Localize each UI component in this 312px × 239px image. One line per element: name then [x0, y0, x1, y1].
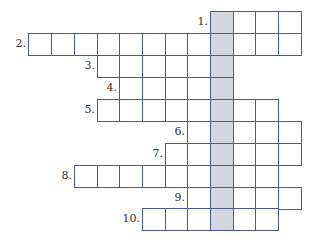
key-column-cell[interactable]	[210, 121, 234, 144]
letter-cell[interactable]	[51, 33, 75, 56]
clue-number: 1.	[178, 11, 208, 33]
letter-cell[interactable]	[187, 33, 211, 56]
letter-cell[interactable]	[233, 208, 257, 231]
letter-cell[interactable]	[119, 165, 143, 188]
letter-cell[interactable]	[142, 55, 166, 78]
clue-number: 10.	[110, 208, 140, 230]
key-column-cell[interactable]	[210, 33, 234, 56]
letter-cell[interactable]	[165, 165, 189, 188]
letter-cell[interactable]	[278, 33, 302, 56]
key-column-cell[interactable]	[210, 187, 234, 210]
key-column-cell[interactable]	[210, 99, 234, 122]
letter-cell[interactable]	[165, 77, 189, 100]
letter-cell[interactable]	[165, 33, 189, 56]
clue-number: 2.	[0, 33, 26, 55]
letter-cell[interactable]	[278, 143, 302, 166]
letter-cell[interactable]	[97, 99, 121, 122]
key-column-cell[interactable]	[210, 77, 234, 100]
key-column-cell[interactable]	[210, 165, 234, 188]
letter-cell[interactable]	[142, 33, 166, 56]
clue-number: 3.	[65, 55, 95, 77]
key-column-cell[interactable]	[210, 55, 234, 78]
letter-cell[interactable]	[142, 77, 166, 100]
letter-cell[interactable]	[28, 33, 52, 56]
letter-cell[interactable]	[74, 165, 98, 188]
key-column-cell[interactable]	[210, 208, 234, 231]
letter-cell[interactable]	[187, 143, 211, 166]
letter-cell[interactable]	[165, 208, 189, 231]
letter-cell[interactable]	[233, 11, 257, 34]
letter-cell[interactable]	[233, 121, 257, 144]
letter-cell[interactable]	[255, 11, 279, 34]
letter-cell[interactable]	[233, 99, 257, 122]
letter-cell[interactable]	[187, 121, 211, 144]
clue-number: 7.	[133, 143, 163, 165]
letter-cell[interactable]	[142, 99, 166, 122]
letter-cell[interactable]	[233, 33, 257, 56]
letter-cell[interactable]	[119, 55, 143, 78]
letter-cell[interactable]	[187, 208, 211, 231]
letter-cell[interactable]	[278, 11, 302, 34]
clue-number: 9.	[155, 187, 185, 209]
clue-number: 5.	[65, 99, 95, 121]
letter-cell[interactable]	[142, 208, 166, 231]
letter-cell[interactable]	[97, 33, 121, 56]
letter-cell[interactable]	[142, 165, 166, 188]
letter-cell[interactable]	[255, 208, 279, 231]
letter-cell[interactable]	[74, 33, 98, 56]
letter-cell[interactable]	[119, 99, 143, 122]
letter-cell[interactable]	[278, 121, 302, 144]
letter-cell[interactable]	[187, 99, 211, 122]
letter-cell[interactable]	[97, 165, 121, 188]
letter-cell[interactable]	[165, 99, 189, 122]
key-column-cell[interactable]	[210, 143, 234, 166]
letter-cell[interactable]	[165, 143, 189, 166]
letter-cell[interactable]	[255, 33, 279, 56]
letter-cell[interactable]	[119, 77, 143, 100]
letter-cell[interactable]	[233, 143, 257, 166]
clue-number: 4.	[87, 77, 117, 99]
letter-cell[interactable]	[187, 55, 211, 78]
clue-number: 6.	[155, 121, 185, 143]
letter-cell[interactable]	[187, 165, 211, 188]
letter-cell[interactable]	[97, 55, 121, 78]
letter-cell[interactable]	[119, 33, 143, 56]
letter-cell[interactable]	[233, 187, 257, 210]
crossword-grid: 1.2.3.4.5.6.7.8.9.10.	[0, 0, 312, 239]
letter-cell[interactable]	[187, 77, 211, 100]
letter-cell[interactable]	[187, 187, 211, 210]
letter-cell[interactable]	[255, 143, 279, 166]
letter-cell[interactable]	[255, 121, 279, 144]
letter-cell[interactable]	[165, 55, 189, 78]
key-column-cell[interactable]	[210, 11, 234, 34]
letter-cell[interactable]	[255, 99, 279, 122]
letter-cell[interactable]	[255, 165, 279, 188]
letter-cell[interactable]	[255, 187, 279, 210]
letter-cell[interactable]	[233, 165, 257, 188]
letter-cell[interactable]	[278, 187, 302, 210]
clue-number: 8.	[42, 165, 72, 187]
